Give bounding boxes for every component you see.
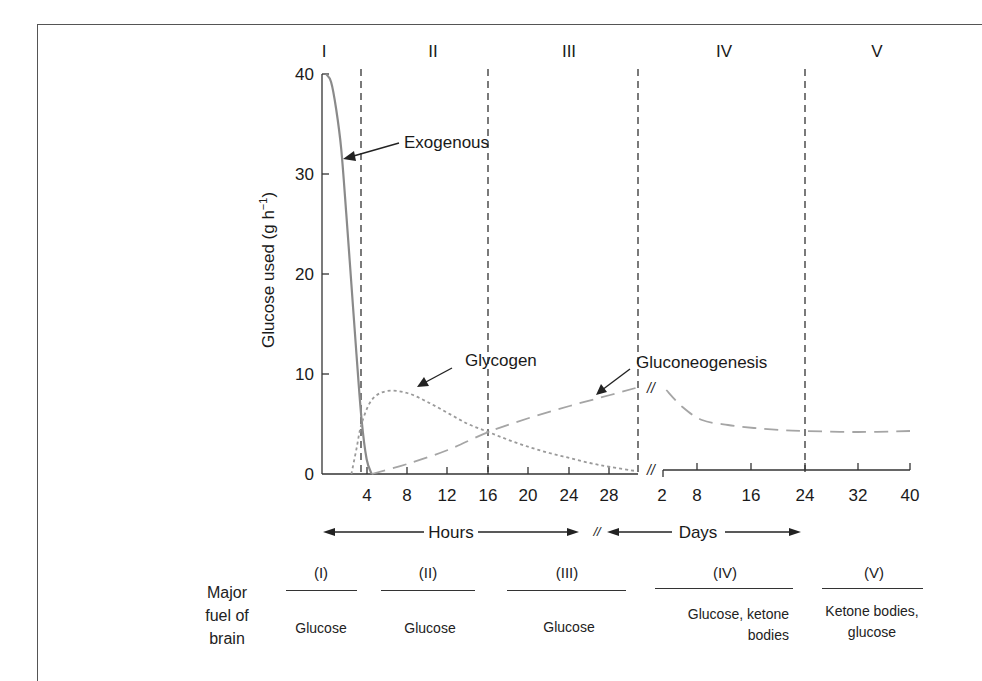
days-label: Days — [679, 523, 718, 542]
phase-label-4: IV — [716, 42, 733, 61]
axis-break-marks: // // — [646, 380, 657, 478]
y-tick-30: 30 — [295, 165, 314, 184]
phase-boundaries — [361, 69, 805, 474]
phase-label-1: I — [322, 42, 327, 61]
fuel-value-2: Glucose — [404, 619, 455, 637]
fuel-divider-4 — [655, 588, 793, 589]
fuel-phase-1: (I) — [314, 564, 328, 582]
fuel-phase-4: (IV) — [713, 564, 737, 582]
annotation-glycogen: Glycogen — [465, 351, 537, 370]
fuel-phase-2: (II) — [419, 564, 437, 582]
annotation-gluconeogenesis: Gluconeogenesis — [636, 353, 767, 372]
phase-label-3: III — [562, 42, 576, 61]
fuel-row-label-line3: brain — [205, 627, 249, 650]
fuel-value-1: Glucose — [295, 619, 346, 637]
hours-label: Hours — [428, 523, 473, 542]
y-tick-20: 20 — [295, 265, 314, 284]
y-tick-0: 0 — [305, 465, 314, 484]
x-tick-labels-hours: 4 8 12 16 20 24 28 — [362, 486, 618, 505]
fuel-phase-3: (III) — [556, 564, 579, 582]
x-tick-8h: 8 — [402, 486, 411, 505]
fuel-value-5-line2: glucose — [825, 622, 918, 643]
x-axis-days — [663, 463, 910, 477]
fuel-divider-2 — [381, 590, 475, 591]
phase-label-2: II — [428, 42, 437, 61]
x-tick-24d: 24 — [796, 486, 815, 505]
arrow-gluconeogenesis-head — [596, 384, 607, 395]
x-tick-24h: 24 — [560, 486, 579, 505]
x-tick-40d: 40 — [901, 486, 920, 505]
y-tick-10: 10 — [295, 365, 314, 384]
arrow-glycogen-line — [424, 368, 452, 383]
x-tick-8d: 8 — [692, 486, 701, 505]
fuel-divider-1 — [286, 590, 357, 591]
annotation-exogenous: Exogenous — [404, 133, 489, 152]
glucose-usage-chart: I II III IV V 40 30 20 10 0 Glucose used… — [0, 0, 982, 681]
x-tick-12h: 12 — [438, 486, 457, 505]
x-tick-labels-days: 2 8 16 24 32 40 — [657, 486, 919, 505]
fuel-value-4: Glucose, ketone bodies — [654, 604, 789, 646]
y-axis-label: Glucose used (g h−1) — [257, 192, 278, 348]
fuel-row-label-line1: Major — [205, 581, 249, 604]
series-gluconeogenesis-days — [666, 390, 910, 432]
phase-labels: I II III IV V — [322, 42, 884, 61]
x-tick-4h: 4 — [362, 486, 371, 505]
fuel-value-5-line1: Ketone bodies, — [825, 601, 918, 622]
series-gluconeogenesis — [372, 388, 636, 474]
y-tick-labels: 40 30 20 10 0 — [295, 65, 314, 484]
x-tick-20h: 20 — [519, 486, 538, 505]
x-tick-2d: 2 — [657, 486, 666, 505]
fuel-row-label-line2: fuel of — [205, 604, 249, 627]
phase-label-5: V — [871, 42, 883, 61]
fuel-value-5: Ketone bodies, glucose — [825, 601, 918, 643]
x-tick-16d: 16 — [742, 486, 761, 505]
hours-days-break: // — [592, 524, 602, 539]
arrow-gluconeogenesis-line — [602, 369, 630, 390]
series-glycogen — [351, 391, 635, 474]
arrow-exogenous-head — [343, 151, 356, 161]
break-mark-upper: // — [646, 380, 657, 396]
arrow-exogenous-line — [350, 143, 399, 157]
fuel-divider-5 — [822, 588, 923, 589]
time-span-arrows — [323, 528, 801, 536]
fuel-value-3: Glucose — [543, 618, 594, 636]
x-tick-32d: 32 — [849, 486, 868, 505]
annotations: Exogenous Glycogen Gluconeogenesis — [343, 133, 767, 395]
y-axis — [322, 74, 329, 474]
fuel-value-4-line1: Glucose, ketone — [654, 604, 789, 625]
y-tick-40: 40 — [295, 65, 314, 84]
fuel-value-4-line2: bodies — [654, 625, 789, 646]
break-mark-lower: // — [646, 462, 657, 478]
fuel-phase-5: (V) — [864, 564, 884, 582]
x-tick-28h: 28 — [600, 486, 619, 505]
fuel-row-label: Major fuel of brain — [205, 581, 249, 650]
fuel-divider-3 — [507, 590, 626, 591]
x-tick-16h: 16 — [479, 486, 498, 505]
